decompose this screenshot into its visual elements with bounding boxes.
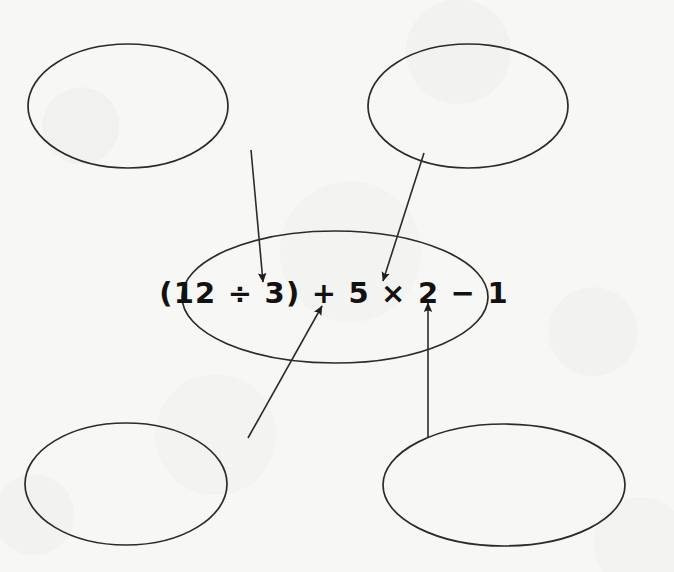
blank-ellipse-top-left[interactable] [28, 44, 228, 168]
blank-ellipse-top-right[interactable] [368, 44, 568, 168]
blank-ellipse-top-right-outline [368, 44, 568, 168]
blank-ellipse-top-left-outline [28, 44, 228, 168]
arrow-top-right-to-multiplication [383, 153, 424, 281]
expression-text: (12 ÷ 3) + 5 × 2 − 1 [159, 276, 509, 310]
blank-ellipse-bottom-right-outline [383, 424, 625, 546]
arrow-top-left-to-division [251, 150, 263, 282]
blank-ellipse-bottom-left-outline [25, 423, 227, 545]
order-of-operations-diagram: (12 ÷ 3) + 5 × 2 − 1 [0, 0, 674, 572]
blank-ellipse-bottom-right[interactable] [383, 424, 625, 546]
blank-ellipse-bottom-left[interactable] [25, 423, 227, 545]
arrow-bottom-left-to-addition [248, 306, 322, 438]
expression-ellipse: (12 ÷ 3) + 5 × 2 − 1 [159, 231, 509, 363]
